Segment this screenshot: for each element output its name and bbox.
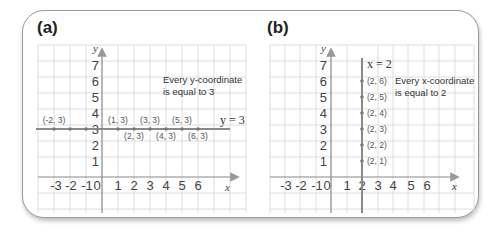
svg-text:-2: -2 [65,178,77,193]
svg-text:3: 3 [320,122,327,137]
svg-text:(3, 3): (3, 3) [140,115,160,125]
panel-b-x-label: x [451,180,457,192]
panel-a-note-line2: is equal to 3 [163,86,214,97]
svg-text:(2, 4): (2, 4) [367,108,387,118]
svg-text:(-2, 3): (-2, 3) [43,115,66,125]
panel-b-y-label: y [320,42,326,54]
panel-b-equation: x = 2 [367,57,392,71]
svg-text:1: 1 [92,154,99,169]
panel-a-y-label: y [92,42,98,54]
panel-b-note-line1: Every x-coordinate [395,75,474,86]
panel-a-x-label: x [224,181,230,193]
svg-text:5: 5 [178,178,185,193]
panel-a-y-ticks: 1 2 3 4 5 6 7 [92,58,99,169]
panel-b-point-labels: (2, 1) (2, 2) (2, 3) (2, 4) (2, 5) (2, 6… [367,76,387,166]
svg-text:(1, 3): (1, 3) [108,115,128,125]
panel-a-equation: y = 3 [220,113,245,127]
svg-text:(2, 6): (2, 6) [367,76,387,86]
panel-a-note-line1: Every y-coordinate [163,74,242,85]
svg-text:4: 4 [162,178,169,193]
svg-text:0: 0 [323,178,330,193]
svg-text:6: 6 [320,74,327,89]
panel-a-x-ticks: -3 -2 -1 0 1 2 3 4 5 6 [50,178,201,193]
svg-text:(4, 3): (4, 3) [156,131,176,141]
svg-text:-1: -1 [81,178,93,193]
svg-text:5: 5 [407,178,414,193]
svg-text:1: 1 [114,178,121,193]
svg-text:2: 2 [320,138,327,153]
svg-text:-3: -3 [50,178,62,193]
panel-b-x-ticks: -3 -2 -1 0 1 2 3 4 5 6 [280,178,430,193]
svg-text:2: 2 [130,178,137,193]
svg-text:5: 5 [320,90,327,105]
svg-text:(2, 5): (2, 5) [367,92,387,102]
svg-text:(2, 3): (2, 3) [124,131,144,141]
svg-text:0: 0 [93,178,100,193]
svg-text:-3: -3 [280,178,292,193]
svg-text:4: 4 [92,106,99,121]
svg-text:1: 1 [343,178,350,193]
svg-text:3: 3 [374,178,381,193]
svg-text:-2: -2 [295,178,307,193]
svg-text:3: 3 [146,178,153,193]
svg-text:7: 7 [92,58,99,73]
graphs-canvas: y x 1 2 3 4 5 6 7 -3 -2 -1 0 1 2 3 4 5 6… [0,0,500,237]
svg-text:(6, 3): (6, 3) [188,131,208,141]
svg-text:1: 1 [320,154,327,169]
panel-b-note-line2: is equal to 2 [395,87,446,98]
svg-text:-1: -1 [311,178,323,193]
svg-text:(2, 1): (2, 1) [367,156,387,166]
svg-text:4: 4 [389,178,396,193]
svg-text:6: 6 [194,178,201,193]
svg-text:7: 7 [320,58,327,73]
svg-text:(2, 3): (2, 3) [367,124,387,134]
svg-text:5: 5 [92,90,99,105]
svg-text:(2, 2): (2, 2) [367,140,387,150]
panel-b-y-ticks: 1 2 3 4 5 6 7 [320,58,327,169]
svg-text:(5, 3): (5, 3) [172,115,192,125]
svg-text:2: 2 [92,138,99,153]
svg-text:6: 6 [92,74,99,89]
svg-text:6: 6 [423,178,430,193]
svg-text:4: 4 [320,106,327,121]
